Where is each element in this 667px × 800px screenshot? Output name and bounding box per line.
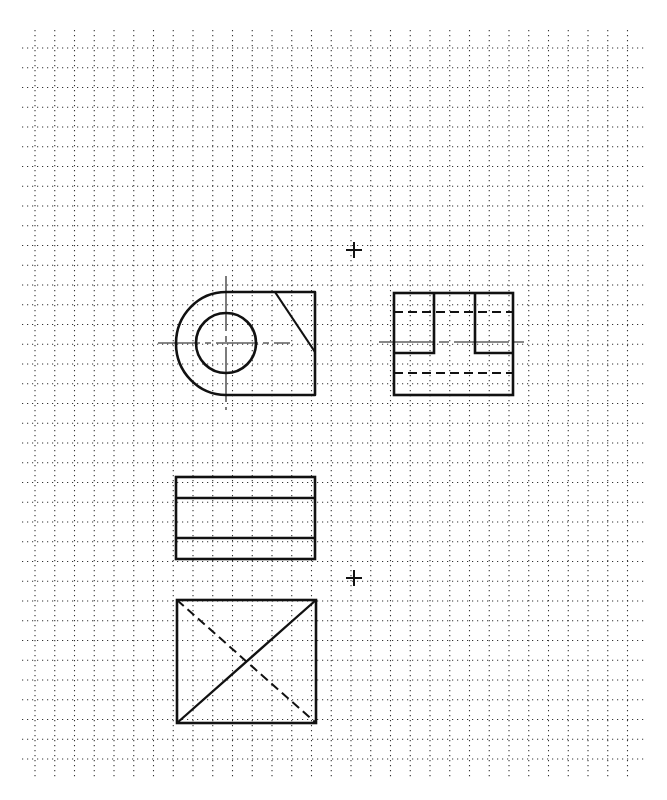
- top-view: [176, 477, 315, 559]
- dotted-grid: [22, 30, 646, 780]
- registration-marks: [346, 242, 362, 586]
- side-outline: [394, 293, 513, 395]
- drawing-canvas: [0, 0, 667, 800]
- auxiliary-view: [177, 600, 316, 723]
- side-view: [379, 293, 528, 395]
- top-outline: [176, 477, 315, 559]
